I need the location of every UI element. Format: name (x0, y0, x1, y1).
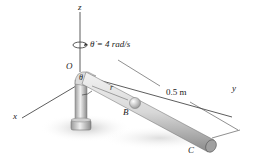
collar-b (130, 98, 141, 109)
end-c-label: C (188, 146, 194, 155)
theta-label: θ (79, 74, 83, 82)
angular-velocity-label: θ̇ = 4 rad/s (90, 40, 130, 49)
dimension-line-start (118, 60, 160, 86)
origin-label: O (66, 62, 73, 71)
vertical-post (75, 80, 87, 122)
post-base-top (71, 118, 91, 122)
y-axis-label: y (232, 84, 236, 93)
r-label: r (110, 84, 113, 92)
diagram-canvas: z θ̇ = 4 rad/s O θ r B 0.5 m y x C (0, 0, 256, 167)
z-axis-label: z (78, 3, 82, 12)
x-axis (22, 86, 76, 118)
dimension-label: 0.5 m (166, 88, 187, 97)
x-axis-label: x (13, 112, 17, 121)
dimension-line-end (190, 102, 238, 130)
collar-b-label: B (123, 108, 129, 117)
rod-diagram (0, 0, 256, 167)
